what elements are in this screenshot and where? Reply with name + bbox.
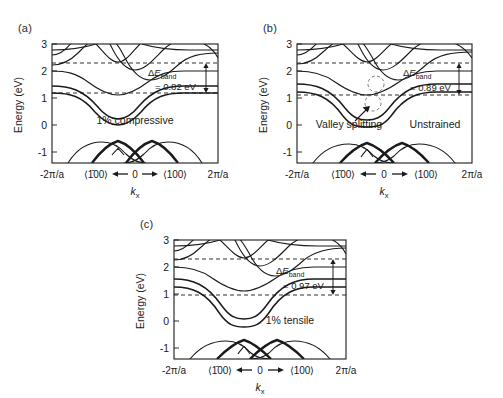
panel-a-delta-value: = 0.82 eV [155,81,197,92]
panel-b-annotation: Valley splitting [316,118,382,130]
panel-c-xtick-right: 2π/a [336,365,357,376]
panel-b-ytick-1: 1 [286,92,292,104]
panel-a-ytick-0: 0 [41,119,47,131]
panel-c-delta-value: = 0.97 eV [283,280,325,291]
panel-a-delta-arrow [203,63,208,93]
panel-b: (b) Energy (eV) 3 2 1 0 -1 [245,0,503,200]
panel-b-ytick-neg1: -1 [283,146,292,158]
panel-c-cb6 [174,240,346,246]
panel-a-xtick-left: -2π/a [40,169,65,180]
panel-a-ytick-2: 2 [41,65,47,77]
panel-b-xlabel: kx [380,185,389,200]
panel-c-vb-heavy2 [250,340,304,359]
panel-b-xtick-right: 2π/a [462,169,483,180]
panel-a-plot: Energy (eV) 3 2 1 0 -1 [0,0,245,200]
panel-c-ytick-2: 2 [163,261,169,273]
panel-c-dir-left: ⟨1̄00⟩ [208,365,233,376]
panel-a-ytick-neg1: -1 [38,146,47,158]
panel-b-delta-label: ΔEband [403,67,431,80]
panel-a-dir-left: ⟨1̄00⟩ [84,169,109,180]
panel-a-cb4 [52,36,218,80]
panel-b-ylabel: Energy (eV) [257,77,269,133]
panel-a-condition: 1% compressive [96,114,173,126]
panel-b-delta-arrow [456,63,461,95]
panel-a-ytick-1: 1 [41,92,47,104]
panel-b-dir-right: ⟨100⟩ [414,169,439,180]
panel-a: (a) Energy (eV) 3 2 1 0 -1 [0,0,245,200]
panel-c-ytick-0: 0 [163,315,169,327]
panel-b-frame [297,44,472,163]
panel-c-plot: Energy (eV) 3 2 1 0 -1 [120,196,380,398]
panel-b-dir-center: 0 [381,169,387,180]
panel-b-delta-value: = 0.89 eV [410,82,452,93]
panel-c-ytick-neg1: -1 [160,342,169,354]
panel-a-ylabel: Energy (eV) [12,77,24,133]
panel-b-cb4 [297,36,472,80]
panel-c-ytick-3: 3 [163,234,169,246]
panel-b-ytick-0: 0 [286,119,292,131]
panel-c-xtick-left: -2π/a [162,365,187,376]
panel-c-dir-right: ⟨100⟩ [290,365,315,376]
panel-a-xtick-right: 2π/a [208,169,229,180]
panel-c-delta-arrow [330,259,335,295]
panel-a-dir-right: ⟨100⟩ [163,169,188,180]
panel-b-condition: Unstrained [410,118,461,130]
panel-a-frame [52,44,218,163]
panel-c-frame [174,240,346,359]
panel-b-vb1 [313,144,394,163]
panel-a-dir-center: 0 [132,169,138,180]
panel-b-cb6 [297,44,472,50]
panel-c-delta-label: ΔEband [276,265,304,278]
panel-b-plot: Energy (eV) 3 2 1 0 -1 [245,0,503,200]
panel-b-dir-left: ⟨1̄00⟩ [331,169,356,180]
panel-c-xlabel: kx [256,381,265,396]
panel-c-cb1 [174,287,346,327]
panel-a-delta-label: ΔEband [148,67,176,80]
panel-a-ytick-3: 3 [41,38,47,50]
panel-c-condition: 1% tensile [266,314,315,326]
panel-c-dir-center: 0 [257,365,263,376]
panel-b-ytick-2: 2 [286,65,292,77]
panel-c-cb4 [174,232,346,276]
panel-a-vb-so [112,148,124,155]
panel-b-valley-circle-upper [368,76,384,92]
panel-c: (c) Energy (eV) 3 2 1 0 -1 [120,196,380,398]
panel-c-ylabel: Energy (eV) [134,273,146,329]
panel-c-ytick-1: 1 [163,288,169,300]
panel-b-xtick-left: -2π/a [285,169,310,180]
panel-b-ytick-3: 3 [286,38,292,50]
